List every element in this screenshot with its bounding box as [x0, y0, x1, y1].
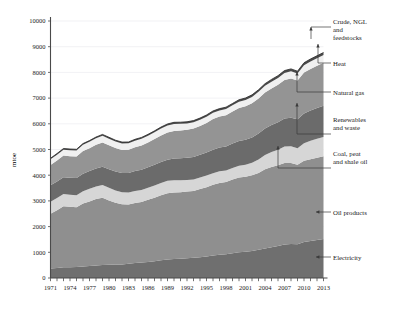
stacked-area-chart: 0100020003000400050006000700080009000100…: [0, 0, 401, 310]
y-tick-label: 9000: [33, 43, 46, 50]
y-tick-label: 5000: [33, 146, 46, 153]
callout-label: Oil products: [333, 209, 367, 216]
y-tick-label: 10000: [29, 17, 45, 24]
y-tick-label: 1000: [33, 249, 46, 256]
x-tick-label: 1977: [83, 284, 97, 291]
y-tick-label: 4000: [33, 172, 46, 179]
x-tick-label: 1998: [220, 284, 233, 291]
x-tick-label: 1986: [142, 284, 156, 291]
callout-labels: Crude, NGLandfeedstocksHeatNatural gasRe…: [333, 18, 367, 261]
y-tick-label: 7000: [33, 94, 46, 101]
callout-label: Renewables: [333, 116, 366, 123]
y-tick-label: 6000: [33, 120, 46, 127]
callout-label: Electricity: [333, 254, 362, 261]
callout-label: and waste: [333, 124, 360, 131]
x-tick-label: 2004: [259, 284, 273, 291]
callout-label: and: [333, 26, 343, 33]
x-tick-label: 1971: [44, 284, 57, 291]
callout-label: feedstocks: [333, 34, 362, 41]
y-tick-label: 2000: [33, 223, 46, 230]
callout-label: Heat: [333, 60, 346, 67]
x-tick-label: 2001: [239, 284, 252, 291]
x-tick-label: 2013: [317, 284, 330, 291]
x-tick-label: 2010: [298, 284, 311, 291]
x-tick-label: 1974: [64, 284, 78, 291]
y-tick-label: 0: [42, 274, 45, 281]
x-tick-label: 1983: [122, 284, 135, 291]
callout-label: and shale oil: [333, 158, 367, 165]
callout-label: Coal, peat: [333, 150, 361, 157]
callout-label: Natural gas: [333, 89, 364, 96]
x-tick-label: 1992: [181, 284, 194, 291]
x-axis-ticks: 1971197419771980198319861989199219951998…: [44, 278, 330, 291]
callout-label: Crude, NGL: [333, 18, 367, 25]
x-tick-label: 1995: [200, 284, 213, 291]
y-axis-ticks: 0100020003000400050006000700080009000100…: [29, 17, 50, 281]
y-tick-label: 3000: [33, 197, 46, 204]
x-tick-label: 2007: [278, 284, 292, 291]
y-tick-label: 8000: [33, 69, 46, 76]
area-layers: [51, 53, 324, 278]
x-tick-label: 1989: [161, 284, 174, 291]
x-tick-label: 1980: [103, 284, 116, 291]
y-axis-title: mtoe: [10, 153, 18, 167]
chart-canvas: 0100020003000400050006000700080009000100…: [0, 0, 401, 310]
